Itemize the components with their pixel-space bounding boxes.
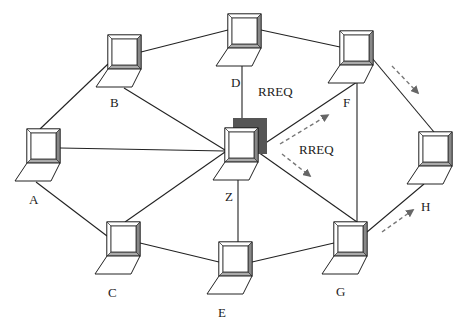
- node-label-b: B: [110, 95, 119, 110]
- network-diagram: D B F A Z H C E G RREQ RREQ: [0, 0, 467, 328]
- rreq-label-upper: RREQ: [258, 84, 293, 99]
- rreq-arrow-z-g: [282, 154, 310, 176]
- link-z-g: [258, 152, 357, 222]
- link-a-c: [36, 182, 107, 236]
- node-a[interactable]: [15, 129, 60, 181]
- link-d-f: [261, 30, 340, 47]
- link-b-z: [124, 88, 225, 150]
- node-b[interactable]: [96, 35, 141, 87]
- node-label-z: Z: [225, 189, 233, 204]
- link-c-z: [125, 152, 225, 222]
- node-e[interactable]: [207, 242, 252, 294]
- link-b-d: [141, 30, 228, 52]
- rreq-arrow-z-f: [280, 115, 328, 144]
- node-z[interactable]: [213, 128, 258, 180]
- node-label-a: A: [29, 192, 39, 207]
- link-a-b: [40, 64, 108, 129]
- node-label-f: F: [343, 95, 350, 110]
- link-c-e: [140, 243, 219, 262]
- link-a-z: [60, 148, 225, 151]
- rreq-label-lower: RREQ: [299, 142, 334, 157]
- node-label-d: D: [231, 75, 240, 90]
- node-label-e: E: [218, 305, 226, 320]
- rreq-arrow-f-h: [392, 66, 418, 93]
- node-h[interactable]: [407, 132, 452, 184]
- node-label-g: G: [336, 284, 345, 299]
- node-c[interactable]: [95, 222, 140, 274]
- node-g[interactable]: [322, 222, 367, 274]
- rreq-arrow-g-h: [382, 210, 413, 232]
- node-label-c: C: [108, 285, 117, 300]
- link-f-h: [372, 58, 434, 132]
- node-label-h: H: [421, 199, 430, 214]
- link-e-g: [252, 243, 334, 262]
- link-g-h: [367, 184, 424, 232]
- node-d[interactable]: [216, 14, 261, 66]
- node-f[interactable]: [328, 31, 373, 83]
